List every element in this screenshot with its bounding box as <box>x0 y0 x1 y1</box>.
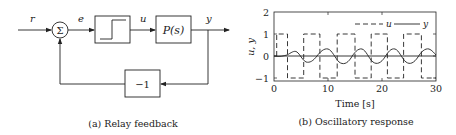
y-tick-1: 1 <box>263 29 269 40</box>
x-axis-label: Time [s] <box>335 98 374 109</box>
y-tick-0: 0 <box>263 51 269 62</box>
figure-canvas: r Σ e u P(s) y −1 (a) Relay feedback <box>0 0 456 135</box>
sigma-symbol: Σ <box>56 25 63 36</box>
x-tick-20: 20 <box>376 83 388 94</box>
label-u: u <box>140 13 146 24</box>
feedback-gain-label: −1 <box>135 79 150 90</box>
x-tick-10: 10 <box>322 83 334 94</box>
block-diagram: r Σ e u P(s) y −1 (a) Relay feedback <box>18 13 229 129</box>
feedback-line-right <box>161 30 208 84</box>
response-plot: 0 10 20 30 2 1 0 −1 Time [s] u, y u y (b… <box>245 7 442 127</box>
relay-step-icon <box>100 20 126 39</box>
legend-y-label: y <box>422 19 429 29</box>
caption-a: (a) Relay feedback <box>88 118 178 129</box>
label-r: r <box>30 13 36 24</box>
y-tick-neg1: −1 <box>255 73 269 84</box>
plant-label: P(s) <box>162 24 185 37</box>
x-tick-0: 0 <box>271 83 277 94</box>
x-tick-30: 30 <box>430 83 442 94</box>
y-axis-label: u, y <box>245 38 256 56</box>
legend: u y <box>355 19 429 29</box>
y-tick-2: 2 <box>263 7 269 18</box>
feedback-line-left <box>60 39 125 84</box>
legend-u-label: u <box>386 19 392 29</box>
caption-b: (b) Oscillatory response <box>298 116 414 127</box>
label-e: e <box>78 13 84 24</box>
label-y: y <box>205 13 212 24</box>
